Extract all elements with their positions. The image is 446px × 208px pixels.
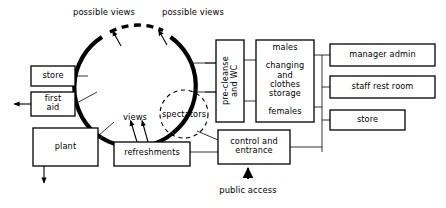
node-staff-rest-room[interactable]	[330, 76, 435, 98]
connector-spectators-to-control	[197, 131, 218, 140]
node-plant[interactable]	[33, 128, 98, 166]
node-manager-admin[interactable]	[330, 44, 435, 66]
node-first-aid[interactable]	[31, 92, 75, 116]
node-control-entrance[interactable]	[218, 130, 290, 164]
node-changing[interactable]	[256, 40, 314, 122]
diagram-canvas: store first aid plant refreshments pre-c…	[0, 0, 446, 208]
node-store-left[interactable]	[31, 66, 75, 86]
node-spectators[interactable]	[160, 90, 208, 138]
node-pre-cleanse-wc[interactable]	[216, 40, 244, 122]
node-store-right[interactable]	[330, 110, 405, 130]
